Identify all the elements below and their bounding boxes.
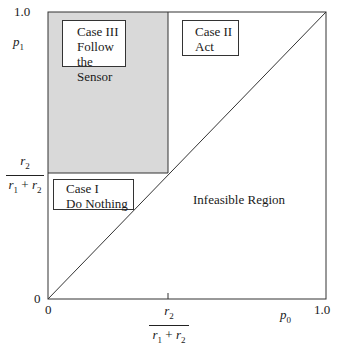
y-axis-label-sub: 1 <box>20 42 25 52</box>
case1-line2: Do Nothing <box>66 196 133 211</box>
y-tick-zero: 0 <box>34 292 41 306</box>
infeasible-region-label: Infeasible Region <box>193 193 285 207</box>
case1-title: Case I <box>66 181 133 196</box>
x-threshold-numerator: r2 <box>149 303 189 324</box>
y-threshold-denominator: r1 + r2 <box>6 177 44 198</box>
x-axis-label: p0 <box>280 308 291 327</box>
case1-label-box: Case I Do Nothing <box>53 179 134 210</box>
y-threshold-numerator: r2 <box>6 153 44 174</box>
x-threshold-denominator: r1 + r2 <box>149 327 189 347</box>
y-axis-label: p1 <box>13 35 24 54</box>
case3-title: Case III <box>77 24 125 39</box>
case3-line3: Sensor <box>77 69 125 84</box>
case3-line2: Follow the <box>77 39 125 69</box>
case3-label-box: Case III Follow the Sensor <box>62 20 126 67</box>
case2-label-box: Case II Act <box>182 20 239 56</box>
x-tick-zero: 0 <box>45 303 52 317</box>
x-threshold-label: r2 r1 + r2 <box>149 303 189 347</box>
case2-line2: Act <box>195 39 238 54</box>
y-threshold-label: r2 r1 + r2 <box>6 153 44 197</box>
fraction-bar <box>149 325 189 326</box>
x-axis-label-sub: 0 <box>287 315 292 325</box>
y-tick-max: 1.0 <box>14 5 30 19</box>
fraction-bar <box>6 175 44 176</box>
x-tick-max: 1.0 <box>314 303 330 317</box>
case2-title: Case II <box>195 24 238 39</box>
